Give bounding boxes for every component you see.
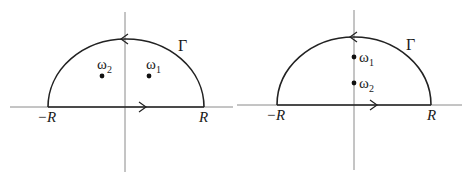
gamma-label: Γ	[178, 37, 187, 54]
neg-r-label: −R	[37, 109, 56, 125]
gamma-label: Γ	[406, 36, 415, 53]
contour-diagrams: ω2 ω1 Γ −R R ω1 ω2 Γ −R R	[0, 0, 470, 180]
right-panel: ω1 ω2 Γ −R R	[237, 10, 462, 170]
r-label: R	[198, 109, 208, 125]
omega-1-label: ω1	[146, 56, 161, 75]
pole-omega-2	[100, 74, 105, 79]
neg-r-label: −R	[266, 107, 285, 123]
r-label: R	[426, 107, 436, 123]
omega-2-label: ω2	[97, 56, 112, 75]
left-panel: ω2 ω1 Γ −R R	[10, 12, 233, 172]
pole-omega-1	[147, 74, 152, 79]
omega-1-label: ω1	[359, 49, 374, 68]
omega-2-label: ω2	[359, 75, 374, 94]
pole-omega-1	[352, 55, 357, 60]
pole-omega-2	[352, 81, 357, 86]
